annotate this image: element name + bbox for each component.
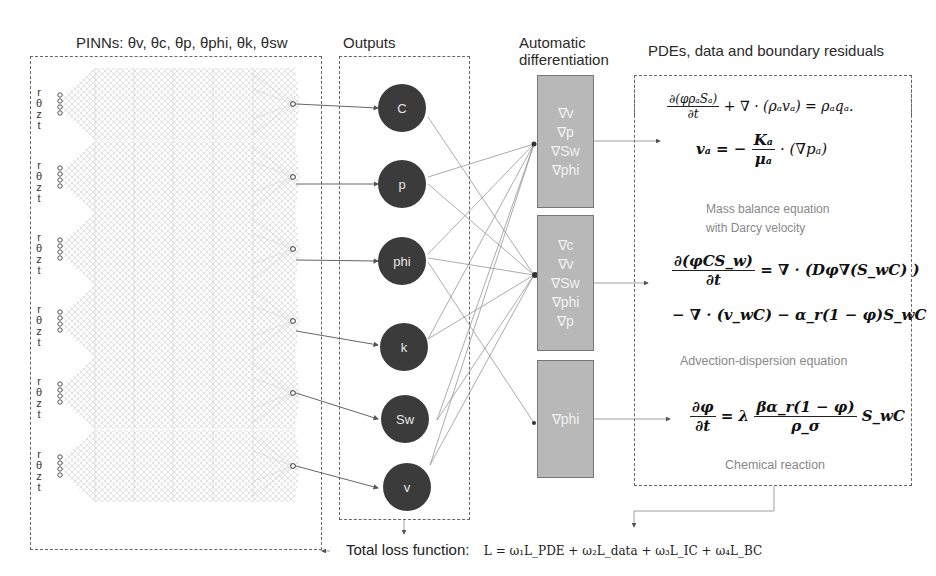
advection-equation-line2: − ∇ · (v_wC) − α_r(1 − φ)S_wC <box>672 306 926 324</box>
network-inputs: rθzt <box>34 304 44 348</box>
network-inputs: rθzt <box>34 376 44 420</box>
network-row <box>58 430 300 502</box>
network-inputs: rθzt <box>34 87 44 131</box>
mass-balance-equation-1: ∂(φρₐSₐ)∂t + ∇ · (ρₐvₐ) = ρₐqₐ. <box>667 92 853 121</box>
chemical-reaction-caption: Chemical reaction <box>725 458 825 472</box>
output-node-phi: phi <box>378 237 426 285</box>
output-node-c: C <box>378 84 426 132</box>
output-to-gradient-lines <box>428 117 534 465</box>
advection-equation-line1: ∂(φCS_w)∂t = ∇ · (Dφ∇(S_wC) ) <box>672 252 920 289</box>
network-to-output-arrows <box>296 104 378 488</box>
total-loss-formula: L = ω₁L_PDE + ω₂L_data + ω₃L_IC + ω₄L_BC <box>484 544 762 558</box>
gradient-box-mass-balance: ∇v ∇p ∇Sw ∇phi <box>537 75 594 208</box>
network-row <box>58 141 300 213</box>
network-row <box>58 285 300 357</box>
chemical-reaction-equation: ∂φ∂t = λ βα_r(1 − φ)ρ_σ S_wC <box>690 398 905 435</box>
total-loss: Total loss function: L = ω₁L_PDE + ω₂L_d… <box>346 541 762 559</box>
gradient-box-advection: ∇c ∇v ∇Sw ∇phi ∇p <box>537 215 594 351</box>
output-node-v: v <box>383 463 431 511</box>
total-loss-label: Total loss function: <box>346 541 469 558</box>
neural-networks <box>58 68 300 502</box>
network-row <box>58 213 300 285</box>
network-inputs: rθzt <box>34 232 44 276</box>
output-node-k: k <box>380 323 428 371</box>
output-node-p: p <box>378 160 426 208</box>
network-row <box>58 357 300 429</box>
advection-caption: Advection-dispersion equation <box>680 354 847 368</box>
gradient-to-equation-arrows <box>594 141 670 419</box>
mass-balance-equation-2: vₐ = − Kₐμₐ · (∇pₐ) <box>696 131 827 168</box>
network-inputs: rθzt <box>34 160 44 204</box>
output-node-sw: Sw <box>381 395 429 443</box>
network-row <box>58 68 300 140</box>
network-inputs: rθzt <box>34 449 44 493</box>
mass-balance-caption: Mass balance equation with Darcy velocit… <box>706 200 829 238</box>
gradient-box-reaction: ∇phi <box>537 360 594 478</box>
